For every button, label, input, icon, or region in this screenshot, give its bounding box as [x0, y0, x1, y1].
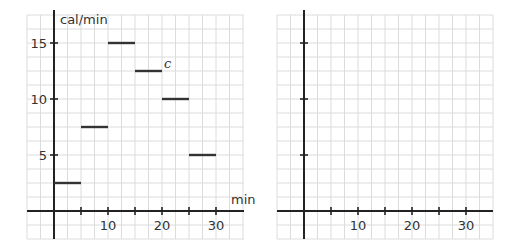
y-axis-label: cal/min [60, 12, 108, 27]
x-tick-label-10: 10 [100, 218, 117, 233]
x-tick-label-30: 30 [208, 218, 225, 233]
right-ticks [300, 43, 466, 215]
left-chart: cal/min min c 15 10 5 10 20 30 [27, 10, 256, 239]
right-grid [277, 15, 493, 239]
x-tick-label-20: 20 [154, 218, 171, 233]
right-x-tick-label-20: 20 [404, 218, 421, 233]
y-tick-label-15: 15 [30, 36, 47, 51]
right-chart: 10 20 30 [277, 10, 493, 239]
left-ticks [50, 43, 216, 215]
right-x-tick-label-30: 30 [458, 218, 475, 233]
y-tick-label-10: 10 [30, 92, 47, 107]
y-tick-label-5: 5 [39, 148, 47, 163]
chart-canvas: cal/min min c 15 10 5 10 20 30 10 20 30 [0, 0, 522, 251]
curve-label-c: c [164, 56, 172, 71]
right-x-tick-label-10: 10 [350, 218, 367, 233]
x-axis-label: min [231, 192, 256, 207]
left-grid [27, 15, 244, 239]
